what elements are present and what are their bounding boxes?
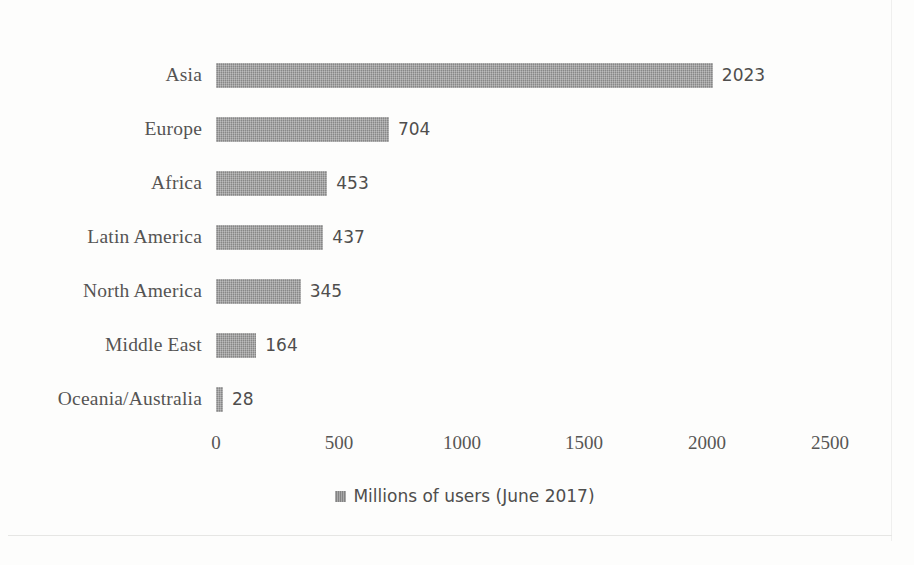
legend-swatch-icon [335, 491, 346, 502]
scan-frame-bottom-line [8, 535, 892, 536]
bar-row: Asia 2023 [0, 48, 914, 102]
category-label: North America [0, 280, 216, 302]
bar-row: Oceania/Australia 28 [0, 372, 914, 426]
category-label: Europe [0, 118, 216, 140]
category-label: Middle East [0, 334, 216, 356]
x-tick-label: 0 [211, 432, 221, 454]
bar-container: 345 [216, 264, 342, 318]
bar[interactable] [216, 333, 256, 358]
category-label: Oceania/Australia [0, 388, 216, 410]
bar-container: 164 [216, 318, 298, 372]
bar-container: 453 [216, 156, 369, 210]
bar[interactable] [216, 387, 223, 412]
bar-row: North America 345 [0, 264, 914, 318]
bar-row: Europe 704 [0, 102, 914, 156]
bar-container: 704 [216, 102, 430, 156]
bar[interactable] [216, 279, 301, 304]
x-tick-label: 1000 [443, 432, 481, 454]
bar-value-label: 453 [336, 173, 368, 193]
bar-value-label: 437 [332, 227, 364, 247]
bar-chart: Asia 2023 Europe 704 Africa 453 Latin Am… [0, 0, 914, 565]
bar-container: 28 [216, 372, 254, 426]
bar[interactable] [216, 117, 389, 142]
bar[interactable] [216, 225, 323, 250]
bar-value-label: 164 [265, 335, 297, 355]
category-label: Asia [0, 64, 216, 86]
bar-value-label: 28 [232, 389, 254, 409]
bar[interactable] [216, 63, 713, 88]
bar-container: 2023 [216, 48, 765, 102]
bar[interactable] [216, 171, 327, 196]
category-label: Africa [0, 172, 216, 194]
bar-value-label: 704 [398, 119, 430, 139]
x-axis: 0 500 1000 1500 2000 2500 [0, 432, 914, 466]
chart-legend: Millions of users (June 2017) [0, 486, 914, 506]
category-label: Latin America [0, 226, 216, 248]
x-tick-label: 500 [325, 432, 354, 454]
bar-row: Latin America 437 [0, 210, 914, 264]
x-tick-label: 2000 [688, 432, 726, 454]
x-tick-label: 2500 [811, 432, 849, 454]
bar-row: Africa 453 [0, 156, 914, 210]
x-tick-label: 1500 [565, 432, 603, 454]
bar-container: 437 [216, 210, 365, 264]
bar-row: Middle East 164 [0, 318, 914, 372]
bar-value-label: 2023 [722, 65, 765, 85]
legend-item[interactable]: Millions of users (June 2017) [335, 486, 594, 506]
legend-label: Millions of users (June 2017) [353, 486, 594, 506]
bar-value-label: 345 [310, 281, 342, 301]
